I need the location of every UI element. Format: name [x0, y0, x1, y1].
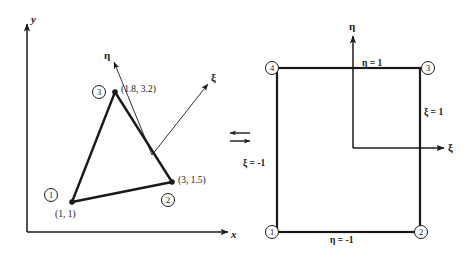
node-3-dot	[112, 89, 118, 95]
physical-node-2-coords: (3, 1.5)	[178, 176, 206, 186]
parent-node-1-badge: 1	[265, 225, 279, 239]
node-1-dot	[69, 199, 75, 205]
physical-local-axes	[114, 62, 208, 155]
global-x-axis-label: x	[231, 229, 237, 240]
edge-label-xi-equals-minus-1: ξ = -1	[243, 159, 265, 169]
parent-node-4-badge: 4	[265, 61, 279, 75]
physical-xi-axis-label: ξ	[211, 72, 216, 83]
local-eta-axis	[114, 62, 152, 155]
physical-triangle-element	[69, 89, 175, 205]
parent-local-axes	[353, 36, 444, 148]
physical-node-3-badge: 3	[92, 85, 106, 99]
global-y-axis-label: y	[31, 14, 36, 25]
parent-node-2-badge: 2	[414, 225, 428, 239]
physical-eta-axis-label: η	[104, 50, 110, 61]
figure-container: y x η ξ 1 2 3 (1, 1) (3, 1.5) (1.8, 3.2)…	[0, 0, 475, 265]
parent-node-3-badge: 3	[421, 61, 435, 75]
edge-label-xi-equals-1: ξ = 1	[424, 108, 443, 118]
square-outline	[277, 68, 420, 232]
physical-node-1-coords: (1, 1)	[55, 210, 76, 220]
diagram-canvas	[0, 0, 475, 265]
parent-eta-axis-label: η	[349, 21, 355, 32]
node-2-dot	[169, 179, 175, 185]
edge-label-eta-equals-1: η = 1	[362, 59, 382, 69]
edge-label-eta-equals-minus-1: η = -1	[330, 236, 353, 246]
mapping-double-arrow	[230, 133, 250, 141]
parent-xi-axis-label: ξ	[448, 142, 453, 153]
local-xi-axis	[152, 84, 208, 155]
triangle-outline	[72, 92, 172, 202]
physical-node-3-coords: (1.8, 3.2)	[121, 85, 156, 95]
physical-node-2-badge: 2	[161, 193, 175, 207]
physical-node-1-badge: 1	[44, 188, 58, 202]
global-axes	[27, 24, 228, 232]
parent-square-element	[277, 68, 420, 232]
